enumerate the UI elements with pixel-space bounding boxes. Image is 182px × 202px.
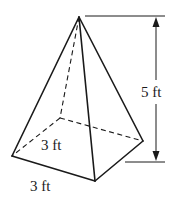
- hidden-edges: [12, 17, 143, 156]
- edge-front-to-right: [95, 141, 143, 181]
- arrow-up-icon: [153, 17, 160, 27]
- edge-apex-to-front: [79, 17, 95, 181]
- hidden-edge-back-to-right: [60, 118, 143, 141]
- edge-left-to-front: [12, 156, 95, 181]
- height-dimension: 5 ft: [85, 16, 165, 162]
- pyramid-diagram: 5 ft 3 ft 3 ft: [0, 0, 182, 202]
- edge-apex-to-left: [12, 17, 79, 156]
- base-depth-label: 3 ft: [41, 137, 62, 153]
- base-width-label: 3 ft: [30, 178, 51, 194]
- height-label: 5 ft: [141, 84, 162, 100]
- arrow-down-icon: [153, 151, 160, 161]
- hidden-edge-apex-to-back: [60, 17, 79, 118]
- visible-edges: [12, 17, 143, 181]
